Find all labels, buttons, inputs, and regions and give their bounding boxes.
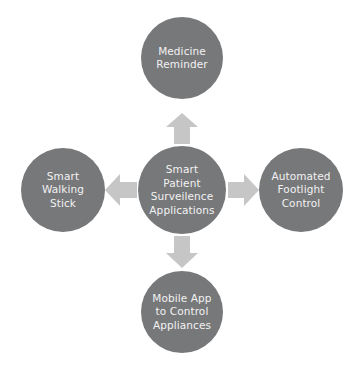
arrow-left-icon: [105, 174, 137, 206]
diagram-canvas: Medicine Reminder Smart Walking Stick Sm…: [0, 0, 363, 372]
node-medicine-reminder[interactable]: Medicine Reminder: [141, 17, 223, 99]
arrow-right-icon: [228, 174, 259, 206]
arrow-down-icon: [166, 236, 198, 268]
node-automated-footlight-control[interactable]: Automated Footlight Control: [259, 148, 343, 232]
node-smart-walking-stick[interactable]: Smart Walking Stick: [21, 148, 105, 232]
node-label: Smart Walking Stick: [38, 170, 88, 211]
arrow-up-icon: [166, 113, 198, 144]
node-label: Medicine Reminder: [152, 45, 211, 72]
node-mobile-app-to-control-appliances[interactable]: Mobile App to Control Appliances: [141, 271, 223, 353]
node-label: Smart Patient Surveilence Applications: [145, 163, 218, 217]
node-label: Automated Footlight Control: [267, 170, 334, 211]
node-label: Mobile App to Control Appliances: [148, 292, 215, 333]
node-smart-patient-surveilence-applications[interactable]: Smart Patient Surveilence Applications: [138, 146, 226, 234]
